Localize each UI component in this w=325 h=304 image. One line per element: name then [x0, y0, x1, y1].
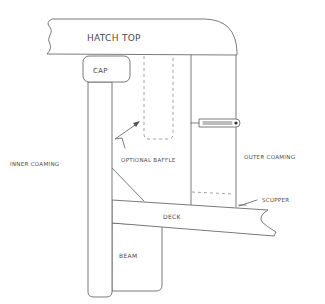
label-outer-coaming: OUTER COAMING [244, 154, 295, 160]
baffle-arrow [115, 121, 140, 148]
label-optional-baffle: OPTIONAL BAFFLE [121, 157, 176, 163]
scupper-pointer [239, 200, 257, 206]
hatch-top [47, 19, 237, 55]
optional-baffle [144, 56, 173, 139]
latch[interactable] [191, 119, 240, 127]
corner-block [112, 168, 144, 201]
label-hatch-top: HATCH TOP [87, 33, 141, 43]
latch-pin-icon [234, 121, 237, 124]
label-cap: CAP [93, 67, 108, 75]
scupper-line [192, 192, 233, 194]
label-scupper: SCUPPER [262, 197, 289, 203]
label-inner-coaming: INNER COAMING [10, 161, 59, 167]
inner-coaming [88, 82, 112, 297]
label-beam: BEAM [119, 252, 137, 259]
outer-coaming [191, 55, 236, 207]
hatch-coaming-diagram: HATCH TOP CAP INNER COAMING OPTIONAL BAF… [0, 0, 325, 304]
label-deck: DECK [163, 213, 182, 220]
